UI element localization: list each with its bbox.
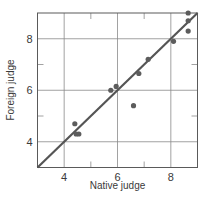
data-point [186, 28, 191, 33]
data-point [136, 71, 141, 76]
x-tick-label: 8 [168, 171, 174, 183]
x-axis-label: Native judge [90, 180, 146, 191]
y-axis-label: Foreign judge [5, 59, 16, 121]
y-tick-labels: 468 [26, 33, 32, 148]
data-point [114, 84, 119, 89]
data-point [186, 18, 191, 23]
data-point [146, 57, 151, 62]
data-point [171, 39, 176, 44]
data-point [76, 131, 81, 136]
y-tick-label: 6 [26, 84, 32, 96]
data-point [131, 103, 136, 108]
scatter-chart: 468 468 Native judge Foreign judge [0, 0, 205, 200]
x-tick-label: 4 [61, 171, 67, 183]
data-point [108, 88, 113, 93]
y-tick-label: 4 [26, 136, 32, 148]
data-point [72, 121, 77, 126]
data-point [186, 10, 191, 15]
y-tick-label: 8 [26, 33, 32, 45]
